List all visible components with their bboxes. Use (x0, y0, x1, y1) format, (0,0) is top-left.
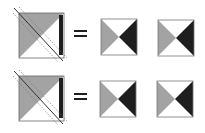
result-block-row-2-a (100, 81, 136, 117)
diagram-canvas (0, 0, 205, 133)
result-block-row-1-a (101, 19, 137, 55)
gray-triangle (19, 76, 64, 121)
black-strip (59, 78, 63, 118)
source-block-row-2 (13, 70, 67, 125)
equals-sign-row-2 (74, 93, 87, 100)
source-block-row-1 (13, 7, 67, 62)
equals-sign-row-1 (74, 30, 87, 37)
black-strip (59, 15, 63, 55)
result-block-row-2-b (157, 81, 193, 117)
gray-triangle (19, 13, 64, 58)
result-block-row-1-b (158, 20, 194, 56)
